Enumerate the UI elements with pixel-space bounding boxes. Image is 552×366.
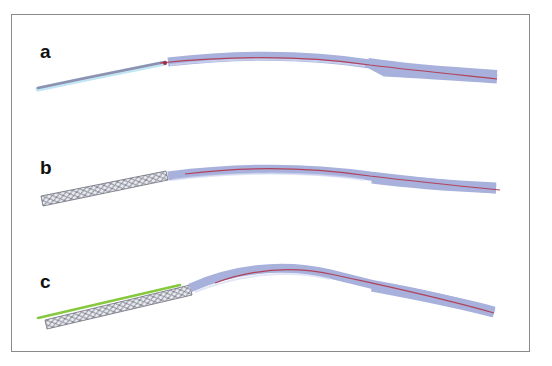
- panel-a-drawing: [38, 56, 497, 89]
- figure-artwork: [0, 0, 552, 366]
- panel-c-drawing: [38, 268, 494, 329]
- panel-b-drawing: [41, 169, 500, 206]
